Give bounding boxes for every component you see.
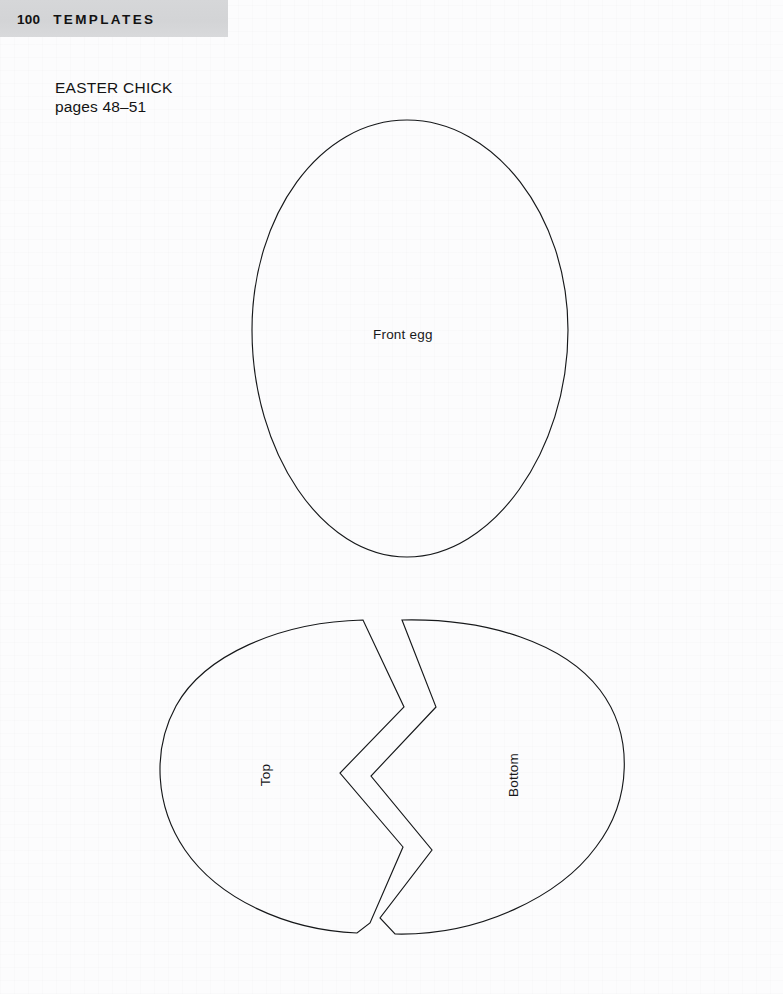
template-artwork [0, 0, 783, 994]
cracked-egg-bottom-label: Bottom [506, 753, 521, 797]
cracked-egg-top-outline [160, 620, 404, 933]
cracked-egg-bottom-outline [371, 620, 624, 934]
front-egg-label: Front egg [373, 327, 433, 342]
cracked-egg-top-label: Top [258, 764, 273, 786]
